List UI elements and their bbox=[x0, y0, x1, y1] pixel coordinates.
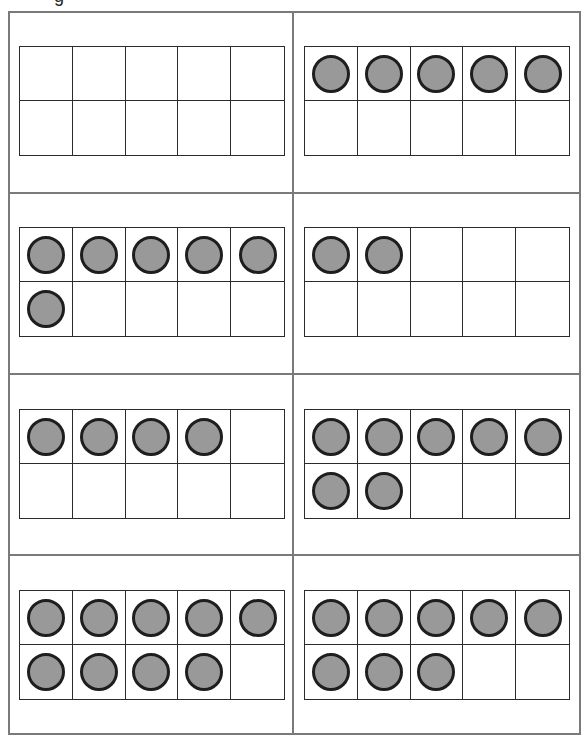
ten-frame-cell bbox=[516, 591, 569, 645]
ten-frame-cell bbox=[126, 464, 179, 518]
ten-frame-cell bbox=[73, 591, 126, 645]
ten-frame-cell bbox=[178, 645, 231, 699]
counter-circle-icon bbox=[80, 653, 118, 691]
ten-frame-cell bbox=[305, 228, 358, 282]
ten-frame-cell bbox=[178, 47, 231, 101]
ten-frame-row-3-left bbox=[19, 409, 285, 519]
ten-frame-cell bbox=[358, 591, 411, 645]
counter-circle-icon bbox=[365, 418, 403, 456]
counter-circle-icon bbox=[524, 55, 562, 93]
counter-circle-icon bbox=[132, 418, 170, 456]
ten-frame-cell bbox=[516, 410, 569, 464]
counter-circle-icon bbox=[27, 236, 65, 274]
counter-circle-icon bbox=[239, 236, 277, 274]
counter-circle-icon bbox=[312, 472, 350, 510]
ten-frame-cell bbox=[411, 47, 464, 101]
ten-frame-cell bbox=[358, 410, 411, 464]
counter-circle-icon bbox=[185, 418, 223, 456]
ten-frame-cell bbox=[411, 464, 464, 518]
ten-frame-cell bbox=[20, 410, 73, 464]
ten-frame-cell bbox=[305, 47, 358, 101]
cropped-heading-text: g bbox=[54, 0, 64, 5]
ten-frame-cell bbox=[516, 645, 569, 699]
row-divider-3 bbox=[8, 554, 581, 556]
ten-frame-cell bbox=[231, 591, 284, 645]
counter-circle-icon bbox=[312, 599, 350, 637]
ten-frame-cell bbox=[126, 228, 179, 282]
counter-circle-icon bbox=[80, 599, 118, 637]
ten-frame-cell bbox=[20, 464, 73, 518]
ten-frame-cell bbox=[358, 228, 411, 282]
ten-frame-cell bbox=[231, 101, 284, 155]
ten-frame-cell bbox=[305, 410, 358, 464]
ten-frame-cell bbox=[411, 282, 464, 336]
ten-frame-cell bbox=[463, 282, 516, 336]
ten-frame-cell bbox=[463, 645, 516, 699]
ten-frame-cell bbox=[411, 228, 464, 282]
ten-frame-cell bbox=[231, 464, 284, 518]
ten-frame-cell bbox=[231, 645, 284, 699]
counter-circle-icon bbox=[365, 653, 403, 691]
counter-circle-icon bbox=[312, 55, 350, 93]
ten-frame-cell bbox=[73, 464, 126, 518]
ten-frame-cell bbox=[20, 101, 73, 155]
ten-frame-cell bbox=[20, 282, 73, 336]
ten-frame-cell bbox=[126, 282, 179, 336]
counter-circle-icon bbox=[312, 418, 350, 456]
counter-circle-icon bbox=[27, 599, 65, 637]
ten-frame-cell bbox=[178, 282, 231, 336]
ten-frame-cell bbox=[411, 410, 464, 464]
ten-frame-cell bbox=[358, 101, 411, 155]
ten-frame-cell bbox=[358, 47, 411, 101]
ten-frame-cell bbox=[126, 47, 179, 101]
ten-frame-cell bbox=[411, 645, 464, 699]
counter-circle-icon bbox=[365, 599, 403, 637]
counter-circle-icon bbox=[132, 599, 170, 637]
counter-circle-icon bbox=[417, 599, 455, 637]
counter-circle-icon bbox=[185, 236, 223, 274]
counter-circle-icon bbox=[27, 653, 65, 691]
ten-frame-cell bbox=[126, 591, 179, 645]
ten-frame-row-3-right bbox=[304, 409, 570, 519]
ten-frame-cell bbox=[463, 591, 516, 645]
ten-frame-cell bbox=[305, 282, 358, 336]
row-divider-2 bbox=[8, 373, 581, 375]
ten-frame-cell bbox=[516, 101, 569, 155]
ten-frame-cell bbox=[463, 410, 516, 464]
ten-frame-cell bbox=[126, 410, 179, 464]
ten-frame-cell bbox=[305, 464, 358, 518]
counter-circle-icon bbox=[417, 55, 455, 93]
counter-circle-icon bbox=[27, 290, 65, 328]
ten-frame-cell bbox=[20, 47, 73, 101]
counter-circle-icon bbox=[312, 653, 350, 691]
counter-circle-icon bbox=[524, 418, 562, 456]
ten-frame-cell bbox=[20, 591, 73, 645]
ten-frame-cell bbox=[178, 101, 231, 155]
counter-circle-icon bbox=[312, 236, 350, 274]
counter-circle-icon bbox=[27, 418, 65, 456]
ten-frame-cell bbox=[73, 228, 126, 282]
ten-frame-cell bbox=[126, 101, 179, 155]
counter-circle-icon bbox=[132, 236, 170, 274]
ten-frame-cell bbox=[516, 464, 569, 518]
ten-frame-row-4-right bbox=[304, 590, 570, 700]
counter-circle-icon bbox=[470, 599, 508, 637]
ten-frame-row-2-left bbox=[19, 227, 285, 337]
counter-circle-icon bbox=[80, 418, 118, 456]
ten-frame-cell bbox=[73, 47, 126, 101]
ten-frame-cell bbox=[178, 410, 231, 464]
ten-frame-cell bbox=[411, 101, 464, 155]
counter-circle-icon bbox=[132, 653, 170, 691]
ten-frame-cell bbox=[305, 591, 358, 645]
ten-frame-row-2-right bbox=[304, 227, 570, 337]
ten-frame-cell bbox=[20, 645, 73, 699]
counter-circle-icon bbox=[185, 599, 223, 637]
ten-frame-row-4-left bbox=[19, 590, 285, 700]
ten-frame-cell bbox=[73, 101, 126, 155]
ten-frame-cell bbox=[305, 645, 358, 699]
ten-frame-cell bbox=[358, 645, 411, 699]
ten-frame-cell bbox=[463, 228, 516, 282]
ten-frame-row-1-right bbox=[304, 46, 570, 156]
ten-frame-cell bbox=[305, 101, 358, 155]
ten-frame-cell bbox=[231, 47, 284, 101]
